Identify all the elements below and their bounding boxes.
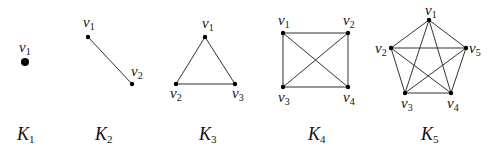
vertex-label-v1: v1 <box>425 2 437 20</box>
vertex-label-v2: v2 <box>170 85 182 103</box>
edge-v2-v3 <box>391 48 405 93</box>
edge-v4-v5 <box>451 48 466 93</box>
edge-v1-v2 <box>176 37 205 84</box>
vertex-v1 <box>21 58 29 66</box>
graph-label-k3: K3 <box>198 124 217 145</box>
vertex-label-v2: v2 <box>131 63 143 81</box>
vertex-v2 <box>389 46 393 50</box>
vertex-label-v1: v1 <box>278 12 290 30</box>
edge-v1-v2 <box>88 37 132 84</box>
vertex-label-v3: v3 <box>401 95 413 113</box>
vertex-label-v1: v1 <box>83 14 95 32</box>
edge-v2-v4 <box>391 48 451 93</box>
vertex-v1 <box>427 18 431 22</box>
vertex-label-v1: v1 <box>202 15 214 33</box>
complete-graphs-figure: v1K1v1v2K2v1v2v3K3v1v2v3v4K4v1v2v3v4v5K5 <box>0 0 498 158</box>
graph-k5: v1v2v3v4v5K5 <box>375 2 481 145</box>
vertex-v1 <box>86 35 90 39</box>
graph-label-k4: K4 <box>307 124 326 145</box>
graph-label-k5: K5 <box>420 124 439 145</box>
edge-v1-v5 <box>429 20 466 48</box>
graph-label-k2: K2 <box>94 124 113 145</box>
vertex-label-v2: v2 <box>375 40 387 58</box>
vertex-v2 <box>130 82 134 86</box>
edge-v3-v5 <box>405 48 466 93</box>
edge-v1-v3 <box>205 37 235 84</box>
graph-k4: v1v2v3v4K4 <box>278 12 355 145</box>
vertex-label-v2: v2 <box>343 12 355 30</box>
graph-k2: v1v2K2 <box>83 14 143 145</box>
vertex-label-v1: v1 <box>19 39 31 57</box>
edge-v1-v2 <box>391 20 429 48</box>
vertex-label-v5: v5 <box>469 40 481 58</box>
vertex-label-v4: v4 <box>343 89 355 107</box>
graph-k3: v1v2v3K3 <box>170 15 244 145</box>
vertex-label-v3: v3 <box>232 85 244 103</box>
vertex-v5 <box>464 46 468 50</box>
edge-v1-v3 <box>405 20 429 93</box>
vertex-v1 <box>281 31 285 35</box>
vertex-v1 <box>203 35 207 39</box>
vertex-label-v4: v4 <box>447 95 459 113</box>
vertex-v2 <box>346 31 350 35</box>
vertex-label-v3: v3 <box>278 89 290 107</box>
graph-k1: v1K1 <box>16 39 35 145</box>
edge-v1-v4 <box>429 20 451 93</box>
graph-label-k1: K1 <box>16 124 35 145</box>
